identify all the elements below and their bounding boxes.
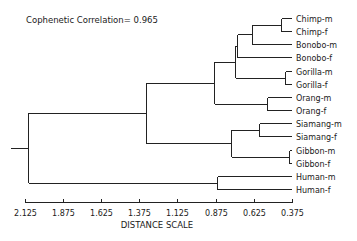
leaf-label: Siamang-m	[296, 120, 342, 129]
x-axis-label: DISTANCE SCALE	[121, 220, 193, 230]
axis-tick-label: 1.875	[52, 209, 75, 218]
dendrogram-branches	[11, 19, 292, 190]
axis-tick-label: 2.125	[14, 209, 37, 218]
cophenetic-annotation: Cophenetic Correlation= 0.965	[26, 15, 158, 25]
leaf-label: Chimp-m	[296, 15, 333, 24]
leaf-label: Human-m	[296, 173, 336, 182]
axis-tick-label: 0.625	[243, 209, 266, 218]
dendrogram-chart: Cophenetic Correlation= 0.965 Chimp-mChi…	[0, 0, 357, 241]
leaf-label: Chimp-f	[296, 28, 328, 37]
leaf-label: Human-f	[296, 186, 331, 195]
leaf-label: Siamang-f	[296, 133, 337, 142]
leaf-label: Bonobo-m	[296, 41, 337, 50]
leaf-label: Gorilla-f	[296, 81, 328, 90]
leaf-label: Gorilla-m	[296, 68, 333, 77]
axis-tick-label: 0.375	[281, 209, 304, 218]
axis-tick-label: 1.625	[90, 209, 113, 218]
distance-axis: 2.1251.8751.6251.3751.1250.8750.6250.375	[14, 199, 304, 218]
axis-tick-label: 0.875	[205, 209, 228, 218]
leaf-label: Orang-m	[296, 94, 332, 103]
leaf-label: Orang-f	[296, 107, 327, 116]
leaf-labels: Chimp-mChimp-fBonobo-mBonobo-fGorilla-mG…	[296, 15, 342, 195]
axis-tick-label: 1.125	[166, 209, 189, 218]
leaf-label: Bonobo-f	[296, 54, 332, 63]
axis-tick-label: 1.375	[128, 209, 151, 218]
leaf-label: Gibbon-m	[296, 147, 335, 156]
leaf-label: Gibbon-f	[296, 160, 330, 169]
